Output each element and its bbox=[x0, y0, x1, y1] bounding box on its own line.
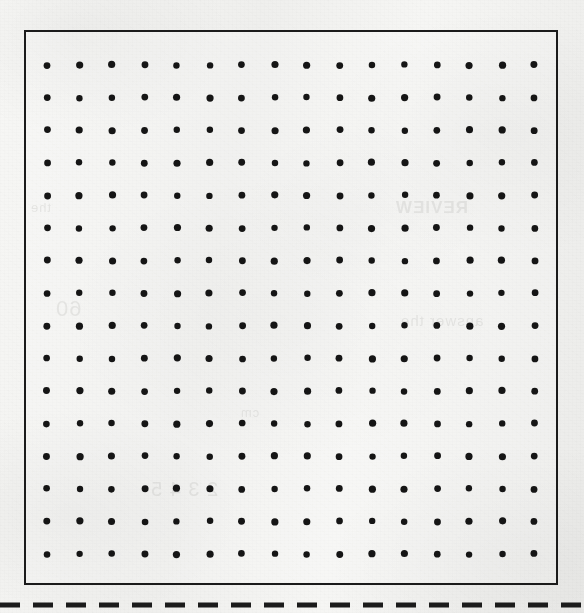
worksheet-page: REVIEW answer the 60 2 3 4 5 the cm bbox=[0, 0, 584, 613]
cut-line bbox=[0, 602, 584, 610]
dot-grid-frame bbox=[24, 30, 558, 585]
dot-grid bbox=[26, 32, 560, 587]
